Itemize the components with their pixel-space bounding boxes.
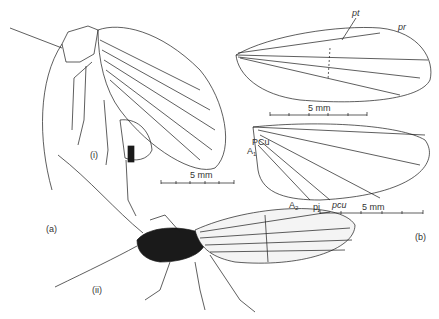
scale-label-hindwing: 5 mm [362, 202, 385, 212]
hindwing-label-pcu: pcu [332, 200, 347, 210]
insect-side-view [10, 26, 226, 216]
scale-label-a: 5 mm [190, 170, 213, 180]
hindwing-label-pj: pj [313, 202, 320, 212]
panel-a-i-label: (i) [90, 150, 98, 160]
panel-a-ii-label: (ii) [92, 285, 102, 295]
forewing-label-pr: pr [398, 22, 406, 32]
hindwing-label-a2: A2 [289, 200, 298, 213]
forewing-label-pt: pt [352, 8, 360, 18]
figure-drawing [0, 0, 439, 319]
panel-a-label: (a) [46, 224, 57, 234]
scale-bar-a [161, 180, 234, 184]
hindwing-drawing [253, 124, 429, 200]
hindwing-label-a1: A1 [247, 146, 256, 159]
panel-b-label: (b) [415, 232, 426, 242]
scale-label-forewing: 5 mm [308, 103, 331, 113]
